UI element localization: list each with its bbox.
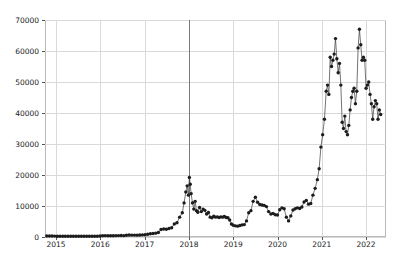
data-point (251, 200, 254, 203)
data-point (323, 118, 326, 121)
data-point (189, 183, 192, 186)
data-series (45, 20, 386, 237)
x-tick-label: 2018 (179, 240, 198, 249)
data-point (178, 215, 181, 218)
x-tick-label: 2016 (91, 240, 110, 249)
data-point (378, 108, 381, 111)
data-point (319, 145, 322, 148)
data-point (300, 205, 303, 208)
data-point (346, 133, 349, 136)
x-tick-label: 2022 (357, 240, 376, 249)
data-point (366, 83, 369, 86)
data-point (175, 221, 178, 224)
data-point (372, 105, 375, 108)
data-point (287, 219, 290, 222)
data-point (254, 196, 257, 199)
data-point (355, 90, 358, 93)
data-point (184, 190, 187, 193)
data-point (327, 93, 330, 96)
data-point (207, 211, 210, 214)
data-point (189, 192, 192, 195)
data-point (347, 124, 350, 127)
data-point (203, 209, 206, 212)
data-point (332, 52, 335, 55)
y-tick-mark (42, 237, 45, 238)
data-point (243, 223, 246, 226)
data-point (193, 200, 196, 203)
data-point (352, 87, 355, 90)
data-point (367, 80, 370, 83)
chart-figure: 010000200003000040000500006000070000 201… (0, 0, 406, 278)
data-point (157, 231, 160, 234)
data-point (364, 87, 367, 90)
data-point (245, 219, 248, 222)
data-point (363, 59, 366, 62)
data-point (182, 201, 185, 204)
data-point (348, 108, 351, 111)
data-point (313, 187, 316, 190)
data-point (370, 102, 373, 105)
data-point (354, 102, 357, 105)
data-point (339, 83, 342, 86)
x-tick-mark (366, 237, 367, 240)
data-point (198, 206, 201, 209)
data-point (181, 211, 184, 214)
data-point (282, 207, 285, 210)
data-point (228, 218, 231, 221)
data-point (185, 184, 188, 187)
data-point (371, 118, 374, 121)
data-point (249, 209, 252, 212)
y-tick-label: 0 (0, 233, 39, 242)
data-point (343, 114, 346, 117)
data-point (188, 176, 191, 179)
x-tick-mark (278, 237, 279, 240)
y-tick-label: 30000 (0, 140, 39, 149)
data-point (329, 56, 332, 59)
data-point (196, 211, 199, 214)
data-point (289, 214, 292, 217)
x-tick-mark (189, 237, 190, 240)
y-tick-label: 60000 (0, 47, 39, 56)
data-point (374, 99, 377, 102)
data-point (265, 205, 268, 208)
data-point (358, 28, 361, 31)
data-point (338, 62, 341, 65)
y-tick-label: 70000 (0, 16, 39, 25)
data-point (379, 113, 382, 116)
data-point (330, 65, 333, 68)
data-point (317, 167, 320, 170)
data-point (331, 59, 334, 62)
data-point (276, 213, 279, 216)
x-tick-label: 2015 (47, 240, 66, 249)
data-point (375, 102, 378, 105)
data-point (350, 96, 353, 99)
data-point (340, 121, 343, 124)
x-tick-label: 2021 (312, 240, 331, 249)
data-point (305, 199, 308, 202)
data-point (336, 71, 339, 74)
data-point (359, 43, 362, 46)
data-point (356, 46, 359, 49)
data-point (368, 93, 371, 96)
series-markers (45, 28, 382, 238)
x-tick-mark (145, 237, 146, 240)
y-tick-label: 20000 (0, 171, 39, 180)
data-point (311, 193, 314, 196)
data-point (334, 37, 337, 40)
series-line (47, 29, 381, 236)
x-tick-label: 2017 (135, 240, 154, 249)
data-point (326, 83, 329, 86)
y-tick-label: 10000 (0, 202, 39, 211)
data-point (170, 226, 173, 229)
data-point (342, 127, 345, 130)
x-tick-mark (322, 237, 323, 240)
data-point (321, 133, 324, 136)
data-point (351, 90, 354, 93)
data-point (316, 178, 319, 181)
x-tick-label: 2019 (224, 240, 243, 249)
x-tick-mark (233, 237, 234, 240)
data-point (325, 90, 328, 93)
data-point (362, 56, 365, 59)
data-point (285, 215, 288, 218)
data-point (335, 57, 338, 60)
